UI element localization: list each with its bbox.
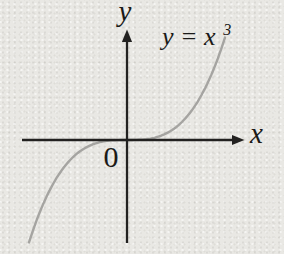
figure-canvas: y x 0 y = x 3: [0, 0, 284, 254]
curve-equation-base: y = x: [159, 22, 216, 51]
x-axis-label: x: [249, 117, 263, 149]
y-axis-label: y: [116, 0, 132, 27]
x-axis-arrowhead: [232, 135, 245, 145]
origin-label: 0: [104, 140, 119, 173]
curve-equation-exponent: 3: [222, 21, 231, 38]
y-axis-arrowhead: [122, 30, 132, 43]
curve-equation-label: y = x 3: [159, 21, 231, 51]
cubic-function-plot: y x 0 y = x 3: [0, 0, 284, 254]
